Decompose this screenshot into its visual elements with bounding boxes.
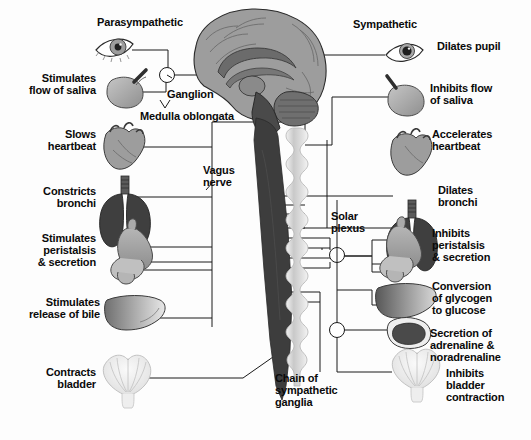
label-accelerates-heartbeat: Accelerates heartbeat — [432, 128, 492, 152]
label-dilates-bronchi: Dilates bronchi — [438, 184, 477, 208]
organ-adrenal-gland-right — [387, 318, 430, 349]
organ-eye-left — [96, 39, 133, 62]
label-slows-heartbeat: Slows heartbeat — [0, 128, 96, 152]
label-chain-sympathetic-ganglia: Chain of sympathetic ganglia — [275, 372, 338, 409]
label-stimulates-peristalsis: Stimulates peristalsis & secretion — [0, 232, 96, 269]
label-stimulates-saliva: Stimulates flow of saliva — [0, 72, 96, 96]
label-inhibits-bladder: Inhibits bladder contraction — [446, 367, 504, 404]
label-dilates-pupil: Dilates pupil — [437, 40, 500, 52]
organ-salivary-gland-right — [387, 76, 424, 116]
heading-parasympathetic: Parasympathetic — [80, 16, 200, 28]
label-conversion-glycogen: Conversion of glycogen to glucose — [432, 280, 492, 317]
organ-salivary-gland-left — [107, 70, 146, 108]
organ-heart-right — [391, 129, 432, 175]
label-ganglion: Ganglion — [167, 88, 213, 100]
label-medulla-oblongata: Medulla oblongata — [140, 110, 234, 122]
label-constricts-bronchi: Constricts bronchi — [0, 185, 96, 209]
label-stimulates-bile: Stimulates release of bile — [0, 296, 100, 320]
spinal-cord-illustration — [254, 118, 292, 400]
organ-heart-left — [104, 123, 145, 169]
label-vagus-nerve: Vagus nerve — [203, 164, 235, 188]
label-inhibits-peristalsis: Inhibits peristalsis & secretion — [432, 227, 490, 264]
autonomic-nervous-system-diagram: Parasympathetic Sympathetic Stimulates f… — [0, 0, 531, 440]
organ-liver-left — [105, 296, 165, 331]
label-inhibits-saliva: Inhibits flow of saliva — [430, 82, 492, 106]
label-secretion-adrenaline: Secretion of adrenaline & noradrenaline — [430, 327, 501, 364]
organ-bladder-left — [103, 355, 150, 408]
label-solar-plexus: Solar plexus — [331, 210, 365, 234]
heading-sympathetic: Sympathetic — [330, 18, 440, 30]
organ-liver-right — [376, 284, 436, 319]
organ-eye-right — [386, 44, 423, 62]
label-contracts-bladder: Contracts bladder — [0, 366, 96, 390]
